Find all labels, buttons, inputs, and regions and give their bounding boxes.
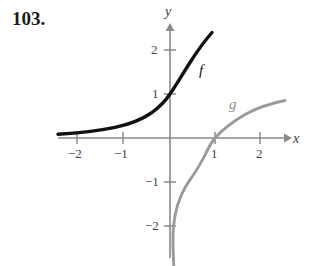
x-tick-label-2: 2 bbox=[256, 146, 263, 162]
x-axis bbox=[58, 134, 292, 143]
x-tick-label-neg2: −2 bbox=[68, 146, 82, 162]
x-tick-label-neg1: −1 bbox=[114, 146, 128, 162]
y-axis-label: y bbox=[165, 4, 171, 20]
curve-label-g: g bbox=[229, 96, 237, 113]
y-tick-label-neg2: −2 bbox=[145, 218, 159, 234]
y-tick-label-1: 1 bbox=[152, 86, 159, 102]
x-axis-label: x bbox=[293, 131, 299, 147]
y-tick-label-neg1: −1 bbox=[145, 174, 159, 190]
y-tick-label-2: 2 bbox=[151, 42, 158, 58]
x-tick-label-1: 1 bbox=[211, 146, 218, 162]
curve-g bbox=[173, 101, 285, 266]
curve-label-f: f bbox=[199, 62, 203, 79]
curve-f bbox=[58, 33, 212, 135]
figure-page: 103. x y bbox=[0, 0, 316, 266]
